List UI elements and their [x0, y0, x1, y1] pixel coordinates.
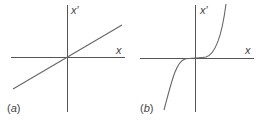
panel-b-letter: b [144, 102, 150, 114]
panel-b-x-label: x [244, 44, 251, 56]
panel-b-y-label: x′ [199, 4, 209, 16]
panel-b-label: (b) [140, 102, 153, 114]
panel-a-y-label: x′ [70, 4, 80, 16]
panel-b: x′ x (b) [140, 4, 254, 114]
panel-a-letter: a [11, 102, 17, 114]
panel-a-x-label: x [115, 44, 122, 56]
panel-a: x′ x (a) [7, 4, 125, 114]
diagram-canvas: x′ x (a) x′ x (b) [0, 0, 257, 124]
panel-a-label: (a) [7, 102, 20, 114]
